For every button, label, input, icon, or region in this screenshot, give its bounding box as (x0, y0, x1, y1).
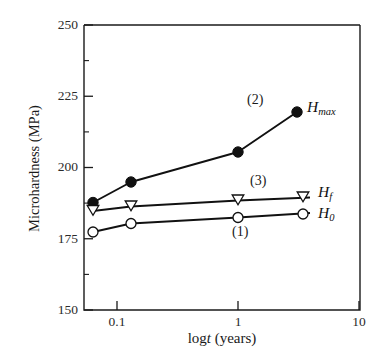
series-hmax-line (93, 112, 297, 203)
series-label-hf: Hf (318, 183, 332, 201)
curve-number-3: (3) (250, 173, 266, 189)
x-axis-title-suffix: (years) (215, 330, 257, 346)
x-axis-title-variable: t (207, 330, 211, 346)
series-h0-marker (88, 227, 98, 237)
series-hf-line (93, 198, 310, 212)
x-tick-label-1: 1 (218, 314, 258, 330)
series-h0 (88, 209, 310, 237)
curve-number-2: (2) (247, 92, 263, 108)
axis-frame (84, 25, 360, 310)
x-tick-label-0point1: 0.1 (97, 314, 137, 330)
y-axis-title: Microhardness (MPa) (26, 49, 43, 289)
series-hmax (88, 107, 302, 208)
series-label-h0-base: H (318, 204, 329, 221)
series-h0-marker (233, 213, 243, 223)
y-tick-label-150: 150 (38, 302, 78, 318)
series-hmax-marker (233, 147, 243, 157)
axis-frame-path (84, 25, 360, 310)
y-tick-label-175: 175 (38, 231, 78, 247)
y-axis-major-ticks (84, 25, 93, 310)
series-label-hmax: Hmax (307, 98, 336, 116)
series-label-hf-base: H (318, 183, 329, 200)
y-tick-label-250: 250 (38, 17, 78, 33)
series-label-hmax-base: H (307, 98, 318, 115)
series-h0-marker (126, 219, 136, 229)
series-hf (87, 192, 310, 215)
y-tick-label-200: 200 (38, 159, 78, 175)
series-h0-marker (298, 209, 308, 219)
x-axis-major-ticks (117, 301, 359, 310)
series-label-h0-sub: 0 (329, 212, 334, 223)
x-axis-title: logt (years) (84, 330, 360, 347)
series-label-h0: H0 (318, 204, 334, 222)
series-hmax-marker (292, 107, 302, 117)
series-label-hmax-sub: max (318, 106, 336, 117)
curve-number-1: (1) (232, 224, 248, 240)
series-label-hf-sub: f (329, 191, 332, 202)
x-tick-label-10: 10 (339, 314, 379, 330)
y-tick-label-225: 225 (38, 88, 78, 104)
microhardness-vs-log-time-chart: 250 225 200 175 150 0.1 1 10 Microhardne… (0, 0, 381, 364)
series-hmax-marker (126, 177, 136, 187)
x-axis-title-prefix: log (188, 330, 207, 346)
